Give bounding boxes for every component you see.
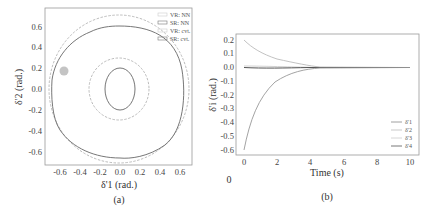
svg-text:SR: cvt.: SR: cvt. — [170, 36, 190, 42]
svg-text:0.6: 0.6 — [31, 22, 42, 32]
svg-text:0.2: 0.2 — [135, 167, 146, 177]
x-axis-label-b: Time (s) — [310, 167, 344, 179]
x-ticks-a: -0.6 -0.4 -0.2 0.0 0.2 0.4 0.6 — [53, 167, 185, 177]
y-ticks-b: 0.2 0.1 0.0 -0.1 -0.2 -0.3 -0.4 -0.5 -0.… — [221, 35, 235, 155]
svg-text:0.0: 0.0 — [31, 84, 42, 94]
svg-text:2: 2 — [275, 157, 279, 167]
svg-text:0.0: 0.0 — [115, 167, 126, 177]
svg-text:-0.2: -0.2 — [29, 105, 42, 115]
y-ticks-a: 0.6 0.4 0.2 0.0 -0.2 -0.4 -0.6 — [29, 22, 43, 157]
x-ticks-b: 0 2 4 6 8 10 — [242, 157, 414, 167]
svg-text:-0.6: -0.6 — [29, 147, 42, 157]
initial-point-marker — [60, 67, 69, 76]
y-axis-label-b: δ'i (rad.) — [207, 78, 219, 112]
svg-text:8: 8 — [375, 157, 379, 167]
figure: VR: NN SR: NN VR: cvt. SR: cvt. 0.6 0.4 … — [0, 0, 430, 213]
svg-text:δ'2: δ'2 — [405, 127, 412, 133]
svg-text:0.6: 0.6 — [175, 167, 186, 177]
svg-text:-0.4: -0.4 — [73, 167, 87, 177]
svg-text:-0.5: -0.5 — [221, 131, 234, 141]
svg-text:0.1: 0.1 — [223, 48, 234, 58]
svg-text:VR: NN: VR: NN — [170, 12, 191, 18]
svg-text:0.4: 0.4 — [31, 42, 42, 52]
svg-text:4: 4 — [308, 157, 313, 167]
caption-a: (a) — [113, 194, 124, 206]
svg-text:-0.2: -0.2 — [93, 167, 106, 177]
svg-text:-0.3: -0.3 — [221, 103, 234, 113]
svg-text:10: 10 — [406, 157, 415, 167]
panel-b: δ'1 δ'2 δ'3 δ'4 0.2 0.1 0.0 -0.1 -0.2 -0… — [207, 34, 419, 203]
svg-text:-0.2: -0.2 — [221, 90, 234, 100]
panel-a: VR: NN SR: NN VR: cvt. SR: cvt. 0.6 0.4 … — [13, 8, 192, 206]
plot-frame-b — [236, 34, 419, 155]
svg-text:6: 6 — [342, 157, 346, 167]
svg-text:0.4: 0.4 — [155, 167, 166, 177]
y-axis-label-a: δ'2 (rad.) — [13, 69, 25, 105]
svg-text:SR: NN: SR: NN — [170, 20, 190, 26]
svg-text:δ'3: δ'3 — [405, 135, 412, 141]
svg-text:0.0: 0.0 — [223, 62, 234, 72]
svg-text:0: 0 — [242, 157, 246, 167]
svg-text:-0.6: -0.6 — [221, 145, 234, 155]
svg-text:-0.1: -0.1 — [221, 76, 234, 86]
svg-text:0.2: 0.2 — [223, 35, 234, 45]
svg-text:-0.4: -0.4 — [29, 126, 43, 136]
caption-b: (b) — [321, 191, 333, 203]
svg-text:VR: cvt.: VR: cvt. — [170, 28, 191, 34]
svg-text:δ'4: δ'4 — [405, 143, 412, 149]
x-axis-label-a: δ'1 (rad.) — [101, 179, 137, 191]
svg-text:δ'1: δ'1 — [405, 119, 412, 125]
svg-text:-0.6: -0.6 — [53, 167, 66, 177]
svg-text:0.2: 0.2 — [31, 63, 42, 73]
stray-zero-label: 0 — [227, 174, 232, 185]
svg-text:-0.4: -0.4 — [221, 117, 235, 127]
